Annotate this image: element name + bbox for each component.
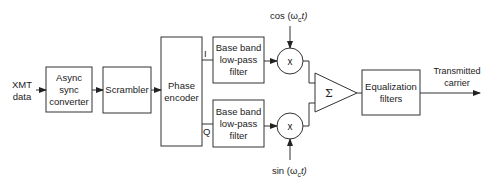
- summer-triangle: [315, 73, 357, 112]
- sin-text: sin (ω: [272, 165, 297, 176]
- sin-carrier-label: sin (ωct): [272, 165, 307, 181]
- wire-mult-i-to-summer: [303, 61, 315, 83]
- cos-carrier-label: cos (ωct): [270, 10, 307, 26]
- equalization-label: Equalization filters: [362, 70, 420, 115]
- summer-symbol: Σ: [325, 87, 333, 100]
- sin-end: t): [301, 165, 307, 176]
- multiplier-q-symbol: x: [288, 121, 293, 132]
- wire-mult-q-to-summer: [303, 103, 315, 126]
- branch-label-i: I: [204, 48, 207, 60]
- phase-encoder-label: Phase encoder: [161, 37, 202, 146]
- input-label: XMT data: [8, 79, 36, 103]
- output-label: Transmitted carrier: [427, 65, 487, 89]
- async-sync-converter-label: Async sync converter: [46, 67, 92, 112]
- scrambler-label: Scrambler: [103, 67, 151, 113]
- lpf-i-label: Base band low-pass filter: [213, 37, 264, 83]
- cos-end: t): [302, 10, 308, 21]
- cos-text: cos (ω: [270, 10, 298, 21]
- branch-label-q: Q: [203, 126, 210, 138]
- lpf-q-label: Base band low-pass filter: [213, 100, 264, 147]
- multiplier-i-symbol: x: [288, 56, 293, 67]
